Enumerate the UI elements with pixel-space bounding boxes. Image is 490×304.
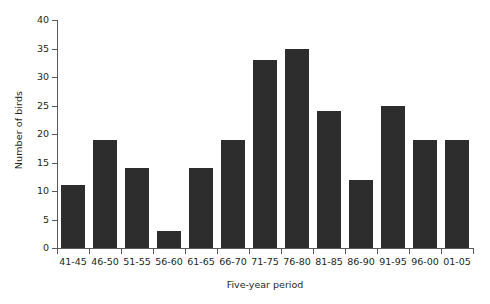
x-axis-tick (185, 249, 186, 254)
x-axis-tick-label: 46-50 (89, 256, 121, 268)
bar (381, 106, 405, 249)
x-axis-tick (313, 249, 314, 254)
y-axis-tick-label: 35 (23, 44, 49, 54)
bar-chart: Number of birds 0510152025303540 41-4546… (0, 0, 490, 304)
x-axis-tick (89, 249, 90, 254)
y-axis-tick-label: 15 (23, 158, 49, 168)
x-axis-tick (281, 249, 282, 254)
x-axis-tick-labels: 41-4546-5051-5556-6061-6566-7071-7576-80… (57, 256, 473, 270)
bar (125, 168, 149, 248)
y-axis-tick-label: 20 (23, 129, 49, 139)
bar (157, 231, 181, 248)
bar (93, 140, 117, 248)
x-axis-tick (121, 249, 122, 254)
x-axis-tick (409, 249, 410, 254)
x-axis-tick (345, 249, 346, 254)
x-axis-tick (377, 249, 378, 254)
bar (189, 168, 213, 248)
x-axis-tick-label: 51-55 (121, 256, 153, 268)
bar (285, 49, 309, 249)
bar (349, 180, 373, 248)
x-axis-tick-label: 71-75 (249, 256, 281, 268)
x-axis-title: Five-year period (57, 279, 473, 291)
y-axis-tick-label: 30 (23, 72, 49, 82)
x-axis-tick-label: 76-80 (281, 256, 313, 268)
x-axis-tick-label: 66-70 (217, 256, 249, 268)
x-axis-tick (249, 249, 250, 254)
x-axis-tick-label: 61-65 (185, 256, 217, 268)
y-axis-tick-label: 0 (23, 243, 49, 253)
y-axis-tick-label: 40 (23, 15, 49, 25)
bar (445, 140, 469, 248)
y-axis-tick-labels: 0510152025303540 (23, 20, 49, 248)
x-axis-tick (217, 249, 218, 254)
x-axis-tick (57, 249, 58, 254)
x-axis-ticks (57, 249, 474, 254)
x-axis-tick-label: 86-90 (345, 256, 377, 268)
bar (61, 185, 85, 248)
x-axis-tick (473, 249, 474, 254)
y-axis-tick-label: 5 (23, 215, 49, 225)
bar (221, 140, 245, 248)
x-axis-tick (441, 249, 442, 254)
x-axis-tick-label: 91-95 (377, 256, 409, 268)
bar-series (57, 20, 473, 248)
bar (413, 140, 437, 248)
y-axis-tick-label: 10 (23, 186, 49, 196)
x-axis-tick-label: 96-00 (409, 256, 441, 268)
bar (253, 60, 277, 248)
x-axis-tick-label: 01-05 (441, 256, 473, 268)
x-axis-tick-label: 41-45 (57, 256, 89, 268)
y-axis-tick-label: 25 (23, 101, 49, 111)
x-axis-tick-label: 56-60 (153, 256, 185, 268)
x-axis-tick-label: 81-85 (313, 256, 345, 268)
bar (317, 111, 341, 248)
x-axis-tick (153, 249, 154, 254)
